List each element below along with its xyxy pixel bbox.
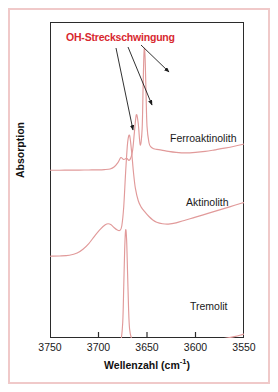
oh-stretch-annotation: OH-Streckschwingung [66, 31, 175, 43]
x-tick-label-3600: 3600 [184, 341, 207, 353]
spectrum-curve-ferroaktinolith [50, 48, 244, 170]
x-tick-label-3650: 3650 [135, 341, 158, 353]
x-axis-title: Wellenzahl (cm-1) [50, 357, 244, 371]
x-axis-ticks [50, 332, 244, 338]
y-axis-title: Absorption [0, 30, 12, 150]
spectra-curves [50, 48, 244, 338]
curve-label-aktinolith: Aktinolith [186, 196, 229, 208]
plot-canvas [50, 22, 244, 338]
x-tick-label-3750: 3750 [38, 341, 61, 353]
curve-label-tremolit: Tremolit [190, 300, 228, 312]
x-axis-title-close: ) [186, 359, 190, 371]
spectrum-curve-tremolit [50, 230, 244, 338]
y-axis-title-text: Absorption [14, 90, 26, 210]
spectroscopy-figure: OH-Streckschwingung Ferroaktinolith Akti… [0, 0, 278, 392]
x-axis-title-main: Wellenzahl (cm [104, 359, 180, 371]
curve-label-ferroaktinolith: Ferroaktinolith [170, 132, 237, 144]
x-tick-label-3700: 3700 [87, 341, 110, 353]
x-tick-label-3550: 3550 [232, 341, 255, 353]
